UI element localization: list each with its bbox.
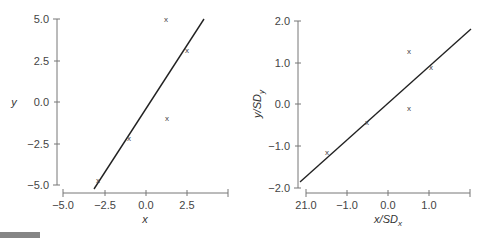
right-y-tick-label: 0.0	[275, 98, 290, 110]
right-x-tick-label: 1.0	[421, 199, 436, 211]
right-y-axis-title: y/SDy	[251, 89, 266, 119]
left-y-tick-label: −2.5	[27, 138, 49, 150]
left-y-tick-label: −5.0	[27, 179, 49, 191]
right-y-tick-label: 1.0	[275, 57, 290, 69]
figure: 5.0 2.5 0.0 −2.5 −5.0 y −5.0 −2.5 0.0 2.…	[0, 0, 489, 240]
right-chart: 2.0 1.0 0.0 −1.0 −2.0 y/SDy 21.0 −1.0 0.…	[251, 15, 471, 228]
left-data-point: x	[164, 15, 168, 24]
left-x-tick-label: −2.5	[94, 199, 116, 211]
right-x-tick-label: −1.0	[336, 199, 358, 211]
right-data-point: x	[407, 104, 411, 113]
right-regression-line	[300, 29, 471, 182]
figure-caption-fragment	[0, 232, 40, 238]
right-data-point: x	[407, 47, 411, 56]
left-x-tick-label: 0.0	[138, 199, 153, 211]
right-y-tick-label: −2.0	[268, 182, 290, 194]
right-data-point: x	[325, 148, 329, 157]
left-y-tick-label: 5.0	[34, 13, 49, 25]
left-data-point: x	[165, 114, 169, 123]
left-y-axis-title: y	[10, 96, 18, 108]
right-y-axis-title-main: y/SD	[251, 94, 263, 119]
left-chart: 5.0 2.5 0.0 −2.5 −5.0 y −5.0 −2.5 0.0 2.…	[10, 13, 228, 225]
left-data-point: x	[185, 46, 189, 55]
left-regression-line	[94, 19, 204, 189]
right-x-tick-label: 0.0	[380, 199, 395, 211]
right-data-point: x	[365, 118, 369, 127]
left-x-tick-label: −5.0	[52, 199, 74, 211]
right-x-axis-title: x/SDx	[373, 213, 403, 228]
right-y-tick-label: −1.0	[268, 140, 290, 152]
left-x-axis-title: x	[141, 213, 148, 225]
right-y-tick-label: 2.0	[275, 15, 290, 27]
right-data-point: x	[429, 63, 433, 72]
left-y-tick-label: 2.5	[34, 55, 49, 67]
right-y-axis-title-sub: y	[257, 89, 266, 95]
svg-text:y/SDy: y/SDy	[251, 89, 266, 119]
right-x-tick-label: 21.0	[295, 199, 316, 211]
left-data-point: x	[127, 134, 131, 143]
left-y-tick-label: 0.0	[34, 96, 49, 108]
left-x-tick-label: 2.5	[179, 199, 194, 211]
right-x-axis-title-main: x/SD	[373, 213, 398, 225]
left-data-point: x	[96, 176, 100, 185]
right-x-axis-title-sub: x	[397, 219, 403, 228]
